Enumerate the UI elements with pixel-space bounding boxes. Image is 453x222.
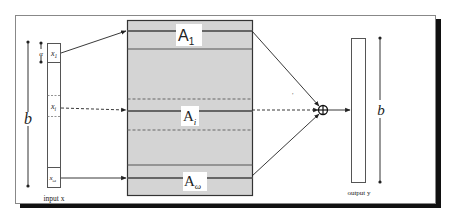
input-height-label: b (24, 110, 32, 127)
output-vector (352, 39, 366, 183)
output-height-label: b (377, 102, 385, 118)
alpha-label: α (39, 50, 43, 58)
input-caption: input x (43, 194, 64, 203)
output-caption: output y (347, 189, 371, 197)
sum-node-icon (319, 106, 328, 115)
weight-matrix-block: A1 Ai Aω (128, 21, 253, 196)
input-vector: x1 xi xω (48, 44, 61, 188)
diagram-canvas: b α x1 xi xω input x A1 Ai Aω (0, 0, 453, 222)
